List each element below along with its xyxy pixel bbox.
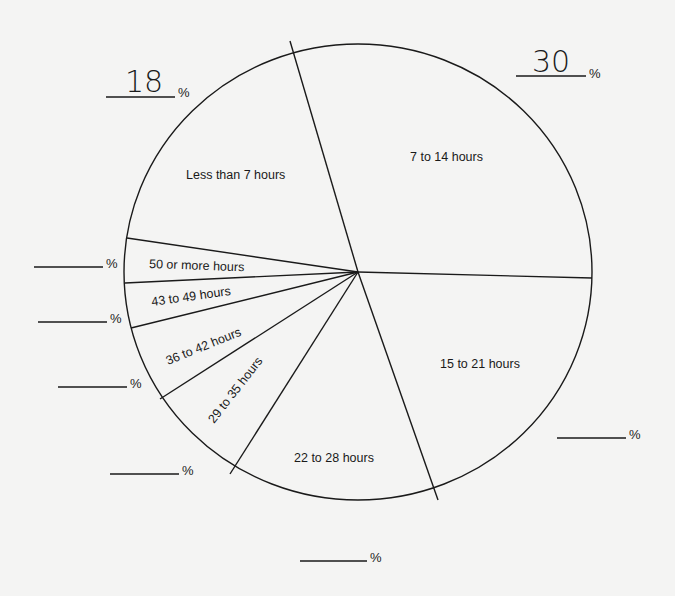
answer-7-14: 30 — [532, 44, 570, 79]
pct-sign: % — [370, 550, 382, 565]
slice-label-22-28: 22 to 28 hours — [294, 451, 374, 465]
slice-label-43-49: 43 to 49 hours — [150, 284, 231, 309]
answer-lt7: 18 — [125, 64, 163, 99]
slice-divider — [290, 41, 358, 272]
pct-sign: % — [178, 85, 190, 100]
pct-sign: % — [629, 427, 641, 442]
slice-divider — [358, 272, 592, 278]
slice-divider — [358, 272, 438, 500]
pie-chart: Less than 7 hours 7 to 14 hours 15 to 21… — [0, 0, 675, 596]
pct-sign: % — [589, 66, 601, 81]
slice-label-50plus: 50 or more hours — [149, 257, 245, 274]
slice-label-36-42: 36 to 42 hours — [164, 325, 243, 368]
pct-sign: % — [106, 256, 118, 271]
slice-label-29-35: 29 to 35 hours — [205, 354, 265, 426]
pct-sign: % — [110, 311, 122, 326]
pct-sign: % — [182, 463, 194, 478]
slice-label-15-21: 15 to 21 hours — [440, 357, 520, 371]
pct-sign: % — [130, 376, 142, 391]
slice-label-7-14: 7 to 14 hours — [410, 150, 483, 164]
slice-label-lt7: Less than 7 hours — [186, 168, 285, 182]
